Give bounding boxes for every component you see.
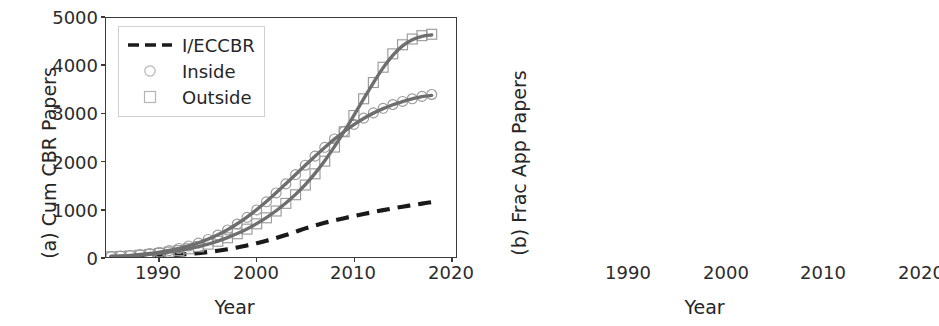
- panel-b-xtick-1990: 1990: [605, 262, 651, 283]
- panel-b-ylabel: (b) Frac App Papers: [504, 0, 534, 326]
- fit-curve-inside: [111, 95, 432, 256]
- panel-a-legend-label-inside: Inside: [182, 61, 236, 82]
- panel-b-xtick-2000: 2000: [703, 262, 749, 283]
- dashed-line-icon: [126, 35, 174, 55]
- panel-a-xtick-2020: 2020: [428, 262, 474, 283]
- panel-a-legend-item-iECCBR[interactable]: I/ECCBR: [126, 32, 255, 58]
- ytick-mark-0: [101, 257, 105, 259]
- panel-a-xtick-2000: 2000: [233, 262, 279, 283]
- panel-a-legend-label-iECCBR: I/ECCBR: [182, 35, 255, 56]
- panel-a-legend-item-outside[interactable]: Outside: [126, 84, 255, 110]
- panel-a-ytick-1000: 1000: [52, 199, 105, 220]
- panel-a-legend: I/ECCBR Inside Outside: [118, 26, 265, 117]
- circle-marker-icon: [126, 61, 174, 81]
- ytick-mark-5: [101, 16, 105, 18]
- panel-a-legend-label-outside: Outside: [182, 87, 252, 108]
- panel-a: (a) Cum CBR Papers 0 1000 2000 3000 4000…: [0, 0, 469, 326]
- figure-container: (a) Cum CBR Papers 0 1000 2000 3000 4000…: [0, 0, 939, 326]
- panel-b-xtick-2020: 2020: [898, 262, 939, 283]
- panel-a-legend-item-inside[interactable]: Inside: [126, 58, 255, 84]
- ytick-mark-3: [101, 113, 105, 115]
- xtick-mark-1990: [158, 258, 160, 262]
- xtick-mark-2020: [451, 258, 453, 262]
- panel-a-ytick-4000: 4000: [52, 55, 105, 76]
- ytick-mark-4: [101, 64, 105, 66]
- xtick-mark-2010: [354, 258, 356, 262]
- panel-b-xtick-2010: 2010: [800, 262, 846, 283]
- panel-a-xtick-1990: 1990: [135, 262, 181, 283]
- panel-a-ytick-group: 0 1000 2000 3000 4000 5000: [35, 17, 105, 258]
- ytick-mark-1: [101, 209, 105, 211]
- square-marker-icon: [126, 87, 174, 107]
- panel-a-xlabel: Year: [0, 296, 469, 318]
- ytick-mark-2: [101, 161, 105, 163]
- panel-a-ytick-2000: 2000: [52, 151, 105, 172]
- panel-b-xlabel: Year: [470, 296, 939, 318]
- panel-a-ytick-5000: 5000: [52, 7, 105, 28]
- panel-a-ytick-3000: 3000: [52, 103, 105, 124]
- panel-b: (b) Frac App Papers 0.0 0.2 0.4 0.6 0.8 …: [470, 0, 939, 326]
- panel-a-xtick-2010: 2010: [330, 262, 376, 283]
- xtick-mark-2000: [256, 258, 258, 262]
